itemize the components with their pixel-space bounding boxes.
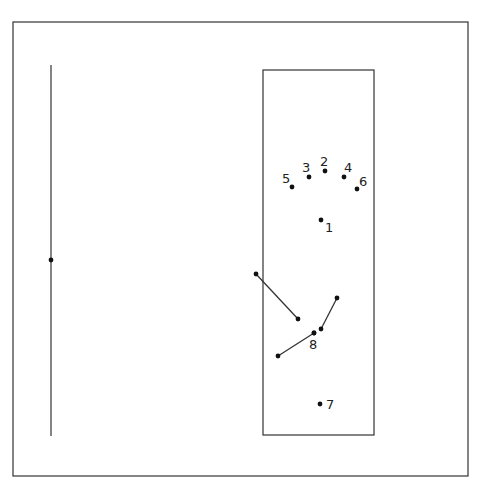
point-6-label: 6 [359, 174, 367, 189]
point-1-dot [319, 218, 324, 223]
line-segment [321, 298, 337, 329]
numbered-points: 12345678 [282, 154, 367, 412]
point-3-label: 3 [302, 160, 310, 175]
point-2-label: 2 [320, 154, 328, 169]
point-7-dot [318, 402, 323, 407]
segment-endpoint-dot [254, 272, 259, 277]
diagram-canvas: 12345678 [0, 0, 485, 492]
point-5-label: 5 [282, 171, 290, 186]
left-line-marker-dot [49, 258, 54, 263]
point-8-label: 8 [309, 337, 317, 352]
line-segments [254, 272, 340, 359]
segment-endpoint-dot [319, 327, 324, 332]
point-4-dot [342, 175, 347, 180]
segment-endpoint-dot [296, 317, 301, 322]
line-segment [256, 274, 298, 319]
point-7-label: 7 [326, 397, 334, 412]
point-1-label: 1 [325, 220, 333, 235]
inner-box [263, 70, 374, 435]
point-5-dot [290, 185, 295, 190]
point-2-dot [323, 169, 328, 174]
point-8-dot [312, 331, 317, 336]
point-3-dot [307, 175, 312, 180]
point-4-label: 4 [344, 160, 352, 175]
segment-endpoint-dot [335, 296, 340, 301]
segment-endpoint-dot [276, 354, 281, 359]
outer-frame [13, 22, 468, 476]
